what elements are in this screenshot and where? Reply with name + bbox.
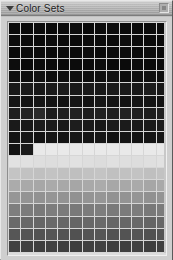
color-swatch[interactable] [21, 168, 32, 179]
color-swatch[interactable] [157, 132, 167, 143]
color-swatch[interactable] [83, 204, 94, 215]
color-swatch[interactable] [107, 253, 118, 256]
color-swatch[interactable] [144, 35, 155, 46]
color-swatch[interactable] [120, 180, 131, 191]
color-swatch[interactable] [107, 108, 118, 119]
color-swatch[interactable] [144, 132, 155, 143]
color-swatch[interactable] [46, 23, 57, 34]
color-swatch[interactable] [9, 71, 20, 82]
color-swatch[interactable] [132, 71, 143, 82]
color-swatch[interactable] [9, 144, 20, 155]
color-swatch[interactable] [83, 168, 94, 179]
color-swatch[interactable] [46, 71, 57, 82]
color-swatch[interactable] [58, 156, 69, 167]
color-swatch[interactable] [157, 108, 167, 119]
color-swatch[interactable] [46, 35, 57, 46]
color-swatch[interactable] [21, 35, 32, 46]
color-swatch[interactable] [120, 217, 131, 228]
color-swatch[interactable] [107, 229, 118, 240]
color-swatch[interactable] [144, 229, 155, 240]
color-swatch[interactable] [120, 35, 131, 46]
color-swatch[interactable] [120, 83, 131, 94]
color-swatch[interactable] [83, 96, 94, 107]
color-swatch[interactable] [83, 217, 94, 228]
color-swatch[interactable] [132, 23, 143, 34]
color-swatch[interactable] [95, 180, 106, 191]
color-swatch[interactable] [9, 47, 20, 58]
color-swatch[interactable] [144, 83, 155, 94]
color-swatch[interactable] [157, 23, 167, 34]
color-swatch[interactable] [21, 23, 32, 34]
color-swatch[interactable] [58, 23, 69, 34]
color-swatch[interactable] [132, 108, 143, 119]
color-swatch[interactable] [46, 192, 57, 203]
color-swatch[interactable] [95, 204, 106, 215]
color-swatch[interactable] [144, 253, 155, 256]
color-swatch[interactable] [58, 132, 69, 143]
color-swatch[interactable] [132, 120, 143, 131]
color-swatch[interactable] [107, 120, 118, 131]
color-swatch[interactable] [132, 229, 143, 240]
color-swatch[interactable] [9, 108, 20, 119]
color-swatch[interactable] [70, 180, 81, 191]
color-swatch[interactable] [46, 229, 57, 240]
color-swatch[interactable] [46, 180, 57, 191]
color-swatch[interactable] [107, 192, 118, 203]
color-swatch[interactable] [58, 35, 69, 46]
color-swatch[interactable] [144, 217, 155, 228]
color-swatch[interactable] [132, 96, 143, 107]
color-swatch[interactable] [132, 241, 143, 252]
color-swatch[interactable] [9, 168, 20, 179]
color-swatch[interactable] [46, 47, 57, 58]
color-swatch[interactable] [21, 156, 32, 167]
close-icon[interactable] [159, 3, 169, 13]
color-swatch[interactable] [120, 120, 131, 131]
color-swatch[interactable] [9, 96, 20, 107]
color-swatch[interactable] [120, 96, 131, 107]
color-swatch[interactable] [58, 120, 69, 131]
color-swatch[interactable] [157, 168, 167, 179]
color-swatch[interactable] [70, 253, 81, 256]
color-swatch[interactable] [21, 229, 32, 240]
color-swatch[interactable] [34, 132, 45, 143]
color-swatch[interactable] [120, 253, 131, 256]
color-swatch[interactable] [107, 47, 118, 58]
color-swatch[interactable] [46, 204, 57, 215]
color-swatch[interactable] [107, 132, 118, 143]
color-swatch[interactable] [83, 132, 94, 143]
color-swatch[interactable] [83, 241, 94, 252]
color-swatch[interactable] [9, 229, 20, 240]
color-swatch[interactable] [58, 241, 69, 252]
color-swatch[interactable] [120, 156, 131, 167]
color-swatch[interactable] [120, 23, 131, 34]
color-swatch[interactable] [144, 47, 155, 58]
color-swatch[interactable] [21, 204, 32, 215]
color-swatch[interactable] [9, 23, 20, 34]
color-swatch[interactable] [95, 35, 106, 46]
color-swatch[interactable] [70, 217, 81, 228]
color-swatch[interactable] [34, 96, 45, 107]
color-swatch[interactable] [144, 96, 155, 107]
color-swatch[interactable] [70, 120, 81, 131]
color-swatch[interactable] [34, 180, 45, 191]
color-swatch[interactable] [46, 108, 57, 119]
color-swatch[interactable] [58, 108, 69, 119]
color-swatch[interactable] [95, 120, 106, 131]
color-swatch[interactable] [58, 229, 69, 240]
color-swatch[interactable] [46, 156, 57, 167]
color-swatch[interactable] [83, 253, 94, 256]
color-swatch[interactable] [21, 144, 32, 155]
color-swatch[interactable] [107, 35, 118, 46]
color-swatch[interactable] [83, 47, 94, 58]
color-swatch[interactable] [95, 71, 106, 82]
color-swatch[interactable] [95, 47, 106, 58]
color-swatch[interactable] [107, 59, 118, 70]
color-swatch[interactable] [120, 132, 131, 143]
color-swatch[interactable] [132, 253, 143, 256]
color-swatch[interactable] [107, 180, 118, 191]
color-swatch[interactable] [95, 156, 106, 167]
color-swatch[interactable] [34, 83, 45, 94]
color-swatch[interactable] [46, 83, 57, 94]
color-swatch[interactable] [120, 168, 131, 179]
color-swatch[interactable] [58, 180, 69, 191]
